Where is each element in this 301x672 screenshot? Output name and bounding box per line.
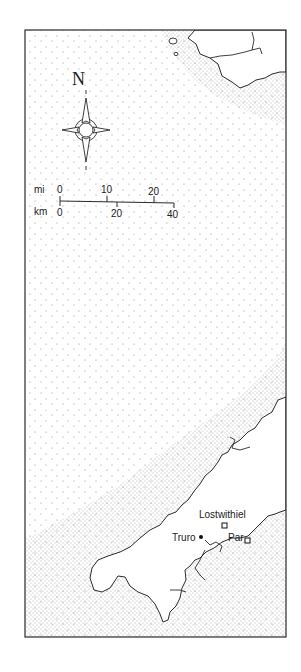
place-label-par: Par	[228, 533, 244, 543]
island	[169, 38, 177, 44]
scale-km-tick-40: 40	[167, 210, 178, 220]
place-square-lostwithiel	[222, 523, 227, 528]
scale-km-label: km	[34, 207, 47, 217]
scale-km-tick-0: 0	[57, 208, 63, 218]
map-canvas	[0, 0, 301, 672]
scale-mi-tick-20: 20	[148, 187, 159, 197]
place-label-truro: Truro	[172, 533, 196, 543]
scale-mi-tick-0: 0	[57, 185, 63, 195]
compass-north-label: N	[72, 70, 85, 88]
place-dot-truro	[199, 535, 203, 539]
scale-mi-tick-10: 10	[101, 185, 112, 195]
place-label-lostwithiel: Lostwithiel	[199, 510, 246, 520]
scale-miles-label: mi	[34, 185, 45, 195]
island	[174, 52, 178, 55]
scale-km-tick-20: 20	[111, 209, 122, 219]
place-square-par	[245, 538, 250, 543]
